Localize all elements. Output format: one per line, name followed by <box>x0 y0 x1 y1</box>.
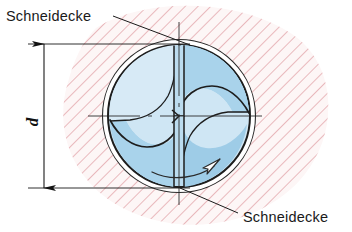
diagram-canvas: d Schneidecke Schneidecke <box>0 0 352 232</box>
drill-cross-section-figure: d Schneidecke Schneidecke <box>0 0 352 232</box>
bottom-callout-label: Schneidecke <box>243 209 328 225</box>
top-callout-label: Schneidecke <box>6 8 91 24</box>
dimension-label-d: d <box>23 117 42 126</box>
